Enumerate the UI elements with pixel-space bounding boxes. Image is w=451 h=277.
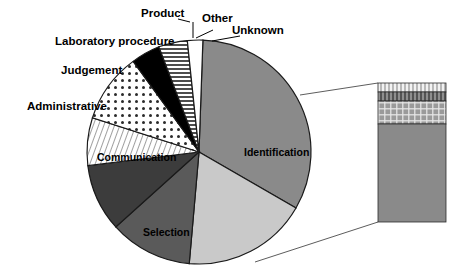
bar-segment-top-striped[interactable] bbox=[378, 83, 446, 92]
callout-stacked-bar[interactable] bbox=[378, 83, 446, 222]
bar-segment-grid[interactable] bbox=[378, 101, 446, 124]
label-selection: Selection bbox=[143, 226, 190, 238]
leader-other bbox=[196, 30, 213, 38]
label-unknown: Unknown bbox=[232, 24, 284, 36]
label-judgement: Judgement bbox=[61, 64, 123, 76]
bar-segment-mid-striped[interactable] bbox=[378, 92, 446, 101]
label-other: Other bbox=[202, 12, 233, 24]
pie-chart-figure: Identification Selection Communication A… bbox=[0, 0, 451, 277]
label-administrative: Administrative bbox=[27, 100, 107, 112]
leader-product-tail bbox=[178, 19, 190, 22]
label-identification: Identification bbox=[244, 146, 309, 158]
label-communication: Communication bbox=[97, 151, 176, 163]
leader-unknown bbox=[212, 36, 240, 41]
label-laboratory-procedure: Laboratory procedure bbox=[55, 35, 175, 47]
bar-segment-solid[interactable] bbox=[378, 124, 446, 222]
callout-leader-top bbox=[300, 83, 378, 95]
label-product: Product bbox=[141, 7, 185, 19]
